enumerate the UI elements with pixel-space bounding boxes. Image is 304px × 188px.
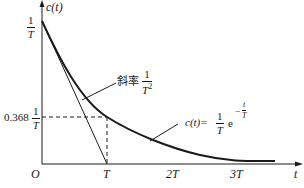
y-tick-num: 1 xyxy=(32,106,40,117)
x-axis-arrow-icon xyxy=(295,162,303,167)
curve-equation-exponent: t T xyxy=(242,101,246,120)
curve-equation-base: e xyxy=(228,118,233,129)
slope-num: 1 xyxy=(143,69,151,80)
x-axis-label: t xyxy=(294,168,297,180)
origin-label: O xyxy=(31,168,40,180)
y-axis-arrow-icon xyxy=(40,0,45,7)
x-tick-3T: 3T xyxy=(230,168,243,180)
exponential-curve xyxy=(42,21,275,161)
y-tick-0368-fraction: 1 T xyxy=(32,106,40,131)
x-tick-2T: 2T xyxy=(166,168,179,180)
slope-den-exponent: 2 xyxy=(148,82,152,91)
slope-den: T2 xyxy=(142,83,152,96)
y-tick-den: T xyxy=(33,120,39,131)
curve-equation-exp-sign: − xyxy=(235,107,240,116)
curve-equation-lhs: c(t)= xyxy=(185,117,208,128)
y-tick-den: T xyxy=(28,29,34,40)
exp-den: T xyxy=(242,112,246,120)
curve-leader-line xyxy=(150,124,178,141)
y-axis-label: c(t) xyxy=(46,1,63,13)
curve-equation-coefficient: 1 T xyxy=(216,111,224,136)
exp-num: t xyxy=(242,101,246,109)
slope-annotation-fraction: 1 T2 xyxy=(142,69,152,96)
slope-annotation-text: 斜率 xyxy=(117,76,139,87)
y-tick-inverse-T: 1 T xyxy=(27,15,35,40)
x-tick-T: T xyxy=(103,168,110,180)
y-tick-0368-prefix: 0.368 xyxy=(4,112,29,123)
coef-den: T xyxy=(217,125,223,136)
y-tick-num: 1 xyxy=(27,15,35,26)
coef-num: 1 xyxy=(216,111,224,122)
slope-leader-line xyxy=(82,83,116,100)
